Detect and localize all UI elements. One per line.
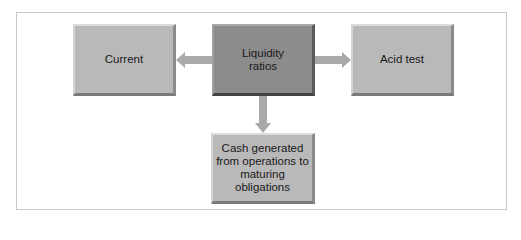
arrow-left-icon [176,51,212,69]
arrow-down-icon [254,96,272,133]
node-acid-test-label: Acid test [380,53,424,66]
node-cash: Cash generated from operations to maturi… [211,133,315,204]
cash-label-line-3: maturing obligations [235,168,290,193]
node-current-label: Current [105,53,143,66]
cash-label-line-1: Cash generated [222,142,304,154]
node-acid-test: Acid test [351,24,454,96]
node-current: Current [73,24,176,96]
cash-label-line-2: from operations to [216,155,309,167]
arrow-right-icon [315,51,351,69]
center-label-line-1: Liquidity [242,47,284,59]
center-label-line-2: ratios [249,60,277,72]
node-liquidity-ratios: Liquidity ratios [212,24,315,96]
